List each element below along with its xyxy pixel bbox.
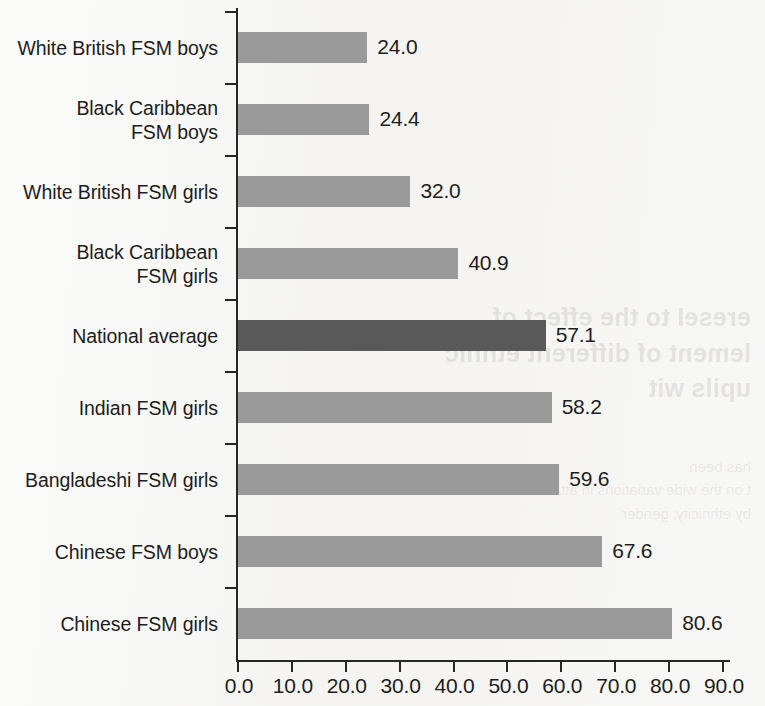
bar bbox=[238, 392, 552, 423]
category-label: Chinese FSM girls bbox=[0, 612, 218, 636]
bar-chart: ereseI to the effect of lement of differ… bbox=[0, 0, 765, 706]
x-axis-tick bbox=[560, 662, 562, 672]
y-axis-tick bbox=[225, 11, 236, 13]
bar bbox=[238, 536, 602, 567]
plot-area: 0.010.020.030.040.050.060.070.080.090.0 … bbox=[0, 0, 765, 706]
category-label: Chinese FSM boys bbox=[0, 540, 218, 564]
x-axis-tick bbox=[237, 662, 239, 672]
y-axis-tick bbox=[225, 443, 236, 445]
category-label: Black Caribbean FSM boys bbox=[0, 96, 218, 144]
category-label: Black Caribbean FSM girls bbox=[0, 240, 218, 288]
category-label: Indian FSM girls bbox=[0, 396, 218, 420]
x-axis-tick bbox=[453, 662, 455, 672]
x-axis-line bbox=[236, 660, 730, 662]
category-label: National average bbox=[0, 324, 218, 348]
x-axis-tick bbox=[345, 662, 347, 672]
bar-value-label: 58.2 bbox=[562, 395, 602, 419]
x-axis-tick bbox=[291, 662, 293, 672]
x-axis-tick bbox=[399, 662, 401, 672]
bar bbox=[238, 32, 367, 63]
y-axis-tick bbox=[225, 515, 236, 517]
x-axis-tick bbox=[668, 662, 670, 672]
bar-value-label: 59.6 bbox=[569, 467, 609, 491]
bar bbox=[238, 104, 369, 135]
y-axis-tick bbox=[225, 587, 236, 589]
category-label: Bangladeshi FSM girls bbox=[0, 468, 218, 492]
bar bbox=[238, 248, 458, 279]
x-axis-tick bbox=[722, 662, 724, 672]
bar-value-label: 24.4 bbox=[379, 107, 419, 131]
bar-value-label: 24.0 bbox=[377, 35, 417, 59]
bar-value-label: 32.0 bbox=[420, 179, 460, 203]
bar bbox=[238, 608, 672, 639]
y-axis-tick bbox=[225, 83, 236, 85]
bar-value-label: 40.9 bbox=[468, 251, 508, 275]
x-axis-tick bbox=[614, 662, 616, 672]
category-label: White British FSM girls bbox=[0, 180, 218, 204]
bar bbox=[238, 464, 559, 495]
y-axis-tick bbox=[225, 299, 236, 301]
x-axis-tick-label: 90.0 bbox=[689, 674, 759, 698]
bar-value-label: 57.1 bbox=[556, 323, 596, 347]
y-axis-tick bbox=[225, 227, 236, 229]
bar-value-label: 67.6 bbox=[612, 539, 652, 563]
category-label: White British FSM boys bbox=[0, 36, 218, 60]
y-axis-tick bbox=[225, 155, 236, 157]
x-axis-tick bbox=[506, 662, 508, 672]
bar bbox=[238, 320, 546, 351]
bar-value-label: 80.6 bbox=[682, 611, 722, 635]
bar bbox=[238, 176, 410, 207]
y-axis-tick bbox=[225, 371, 236, 373]
